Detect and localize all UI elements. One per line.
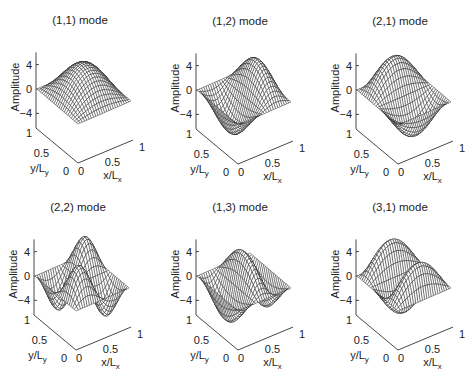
z-axis-label: Amplitude	[169, 64, 181, 113]
x-tick-label: 1	[139, 141, 145, 153]
x-tick-label: 0	[238, 352, 244, 364]
y-tick-label: 0	[63, 165, 69, 177]
x-tick-label: 0	[78, 165, 84, 177]
y-axis-label: y/Ly	[350, 163, 369, 178]
y-tick-label: 1	[186, 128, 192, 140]
y-tick-label: 0.5	[32, 334, 47, 346]
x-axis-label: x/Lx	[423, 356, 442, 371]
x-tick-label: 1	[299, 328, 305, 340]
x-tick-label: 1	[299, 142, 305, 154]
surface-mesh	[357, 55, 451, 136]
surface-plot: 40−4Amplitude10.50y/Ly00.51x/Lx	[0, 187, 158, 373]
y-tick-label: 0	[383, 352, 389, 364]
z-tick-label: 0	[24, 270, 30, 282]
x-tick-label: 1	[459, 142, 465, 154]
x-axis-label: x/Lx	[263, 170, 282, 185]
y-tick-label: 0.5	[354, 148, 369, 160]
x-tick-label: 0	[398, 352, 404, 364]
z-axis-label: Amplitude	[169, 250, 181, 299]
y-tick-label: 1	[26, 127, 32, 139]
subplot-mode-2-2: (2,2) mode 40−4Amplitude10.50y/Ly00.51x/…	[0, 187, 158, 373]
y-tick-label: 0	[223, 166, 229, 178]
surface-plot: 40−4Amplitude10.50y/Ly00.51x/Lx	[160, 187, 320, 373]
y-tick-label: 1	[346, 314, 352, 326]
z-axis-label: Amplitude	[9, 63, 21, 112]
z-tick-label: 4	[346, 246, 352, 258]
x-tick-label: 0.5	[105, 156, 120, 168]
z-tick-label: 4	[186, 246, 192, 258]
subplot-mode-1-2: (1,2) mode 40−4Amplitude10.50y/Ly00.51x/…	[160, 1, 320, 187]
z-tick-label: −4	[339, 108, 352, 120]
y-tick-label: 1	[346, 128, 352, 140]
subplot-mode-1-1: (1,1) mode 40−4Amplitude10.50y/Ly00.51x/…	[0, 0, 160, 186]
z-tick-label: 4	[24, 246, 30, 258]
y-tick-label: 1	[24, 314, 30, 326]
x-tick-label: 0.5	[425, 157, 440, 169]
x-tick-label: 0.5	[425, 343, 440, 355]
surface-plot: 40−4Amplitude10.50y/Ly00.51x/Lx	[320, 187, 470, 373]
z-tick-label: −4	[179, 294, 192, 306]
z-tick-label: 0	[186, 84, 192, 96]
surface-mesh	[35, 237, 129, 316]
z-tick-label: 4	[26, 59, 32, 71]
y-axis-label: y/Ly	[190, 163, 209, 178]
y-tick-label: 0	[383, 166, 389, 178]
surface-plot: 40−4Amplitude10.50y/Ly00.51x/Lx	[320, 1, 470, 187]
z-tick-label: 0	[26, 83, 32, 95]
x-tick-label: 0	[238, 166, 244, 178]
x-tick-label: 0	[76, 352, 82, 364]
subplot-mode-2-1: (2,1) mode 40−4Amplitude10.50y/Ly00.51x/…	[320, 1, 470, 187]
x-axis-label: x/Lx	[101, 356, 120, 371]
y-axis-label: y/Ly	[190, 349, 209, 364]
surface-plot: 40−4Amplitude10.50y/Ly00.51x/Lx	[160, 1, 320, 187]
z-tick-label: 0	[186, 270, 192, 282]
x-axis-label: x/Lx	[103, 169, 122, 184]
x-tick-label: 1	[137, 328, 143, 340]
y-axis-label: y/Ly	[350, 349, 369, 364]
z-tick-label: −4	[339, 294, 352, 306]
y-tick-label: 0.5	[354, 334, 369, 346]
y-tick-label: 0	[223, 352, 229, 364]
z-tick-label: −4	[19, 107, 32, 119]
x-tick-label: 0	[398, 166, 404, 178]
z-tick-label: −4	[17, 294, 30, 306]
y-axis-label: y/Ly	[28, 349, 47, 364]
surface-mesh	[37, 62, 131, 125]
y-tick-label: 0.5	[194, 334, 209, 346]
z-tick-label: 0	[346, 270, 352, 282]
x-axis-label: x/Lx	[263, 356, 282, 371]
x-tick-label: 0.5	[103, 343, 118, 355]
x-tick-label: 0.5	[265, 343, 280, 355]
x-axis-label: x/Lx	[423, 170, 442, 185]
subplot-mode-1-3: (1,3) mode 40−4Amplitude10.50y/Ly00.51x/…	[160, 187, 320, 373]
z-tick-label: 4	[346, 60, 352, 72]
y-tick-label: 0.5	[194, 148, 209, 160]
y-tick-label: 0	[61, 352, 67, 364]
z-axis-label: Amplitude	[329, 64, 341, 113]
y-axis-label: y/Ly	[30, 162, 49, 177]
surface-mesh	[357, 239, 451, 313]
z-axis-label: Amplitude	[329, 250, 341, 299]
z-tick-label: 0	[346, 84, 352, 96]
surface-plot: 40−4Amplitude10.50y/Ly00.51x/Lx	[0, 0, 160, 186]
subplot-mode-3-1: (3,1) mode 40−4Amplitude10.50y/Ly00.51x/…	[320, 187, 470, 373]
y-tick-label: 1	[186, 314, 192, 326]
z-axis-label: Amplitude	[7, 250, 19, 299]
x-tick-label: 1	[459, 328, 465, 340]
y-tick-label: 0.5	[34, 147, 49, 159]
x-tick-label: 0.5	[265, 157, 280, 169]
z-tick-label: −4	[179, 108, 192, 120]
surface-mesh	[197, 58, 291, 135]
z-tick-label: 4	[186, 60, 192, 72]
surface-mesh	[197, 249, 291, 322]
